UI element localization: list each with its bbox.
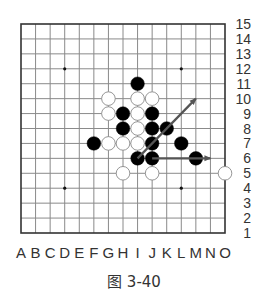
black-stone-J8: [145, 122, 159, 136]
white-stone-G9: [102, 107, 116, 121]
gomoku-board: ABCDEFGHIJKLMNO 151413121110987654321: [0, 0, 268, 305]
row-label-6: 6: [243, 150, 251, 166]
row-label-3: 3: [243, 195, 251, 211]
star-point-D12: [63, 67, 66, 70]
column-label-L: L: [177, 244, 185, 261]
column-label-B: B: [31, 244, 41, 261]
white-stone-I10: [131, 92, 145, 106]
row-label-2: 2: [243, 210, 251, 226]
white-stone-H5: [116, 166, 130, 180]
white-stone-J10: [145, 92, 159, 106]
column-label-D: D: [59, 244, 70, 261]
row-label-1: 1: [243, 225, 251, 241]
star-point-D4: [63, 187, 66, 190]
column-label-M: M: [190, 244, 203, 261]
column-label-C: C: [45, 244, 56, 261]
column-label-I: I: [135, 244, 139, 261]
row-label-8: 8: [243, 121, 251, 137]
row-labels: 151413121110987654321: [235, 16, 251, 241]
white-stone-H7: [116, 137, 130, 151]
row-label-12: 12: [235, 61, 251, 77]
column-label-E: E: [74, 244, 84, 261]
black-stone-F7: [87, 137, 101, 151]
row-label-14: 14: [235, 31, 251, 47]
white-stone-I9: [131, 107, 145, 121]
white-stone-O5: [218, 166, 232, 180]
row-label-7: 7: [243, 135, 251, 151]
column-label-N: N: [205, 244, 216, 261]
column-labels: ABCDEFGHIJKLMNO: [16, 244, 231, 261]
row-label-10: 10: [235, 91, 251, 107]
column-label-J: J: [148, 244, 156, 261]
row-label-9: 9: [243, 106, 251, 122]
black-stone-H8: [116, 122, 130, 136]
figure-caption: 图 3-40: [0, 270, 268, 291]
column-label-H: H: [118, 244, 129, 261]
white-stone-I8: [131, 122, 145, 136]
row-label-5: 5: [243, 165, 251, 181]
column-label-G: G: [103, 244, 115, 261]
star-point-L12: [180, 67, 183, 70]
column-label-F: F: [89, 244, 98, 261]
column-label-K: K: [162, 244, 172, 261]
row-label-13: 13: [235, 46, 251, 62]
row-label-4: 4: [243, 180, 251, 196]
row-label-15: 15: [235, 16, 251, 32]
black-stone-L7: [174, 137, 188, 151]
column-label-O: O: [219, 244, 231, 261]
row-label-11: 11: [236, 76, 251, 92]
star-point-L4: [180, 187, 183, 190]
black-stone-H9: [116, 107, 130, 121]
black-stone-J9: [145, 107, 159, 121]
white-stone-J5: [145, 166, 159, 180]
column-label-A: A: [16, 244, 26, 261]
black-stone-I11: [131, 77, 145, 91]
white-stone-G10: [102, 92, 116, 106]
white-stone-G7: [102, 137, 116, 151]
white-stone-I7: [131, 137, 145, 151]
